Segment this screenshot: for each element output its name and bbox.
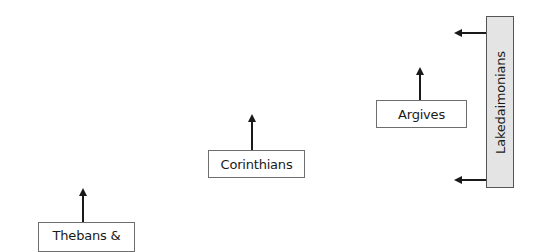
node-thebans: Thebans & [38, 222, 135, 252]
node-label: Corinthians [221, 157, 293, 172]
node-argives: Argives [376, 100, 467, 128]
node-corinthians: Corinthians [208, 150, 305, 178]
node-label: Lakedaimonians [493, 51, 508, 154]
node-label: Argives [398, 107, 445, 122]
node-lakedaimonians: Lakedaimonians [486, 16, 514, 188]
node-label: Thebans & [53, 228, 121, 243]
